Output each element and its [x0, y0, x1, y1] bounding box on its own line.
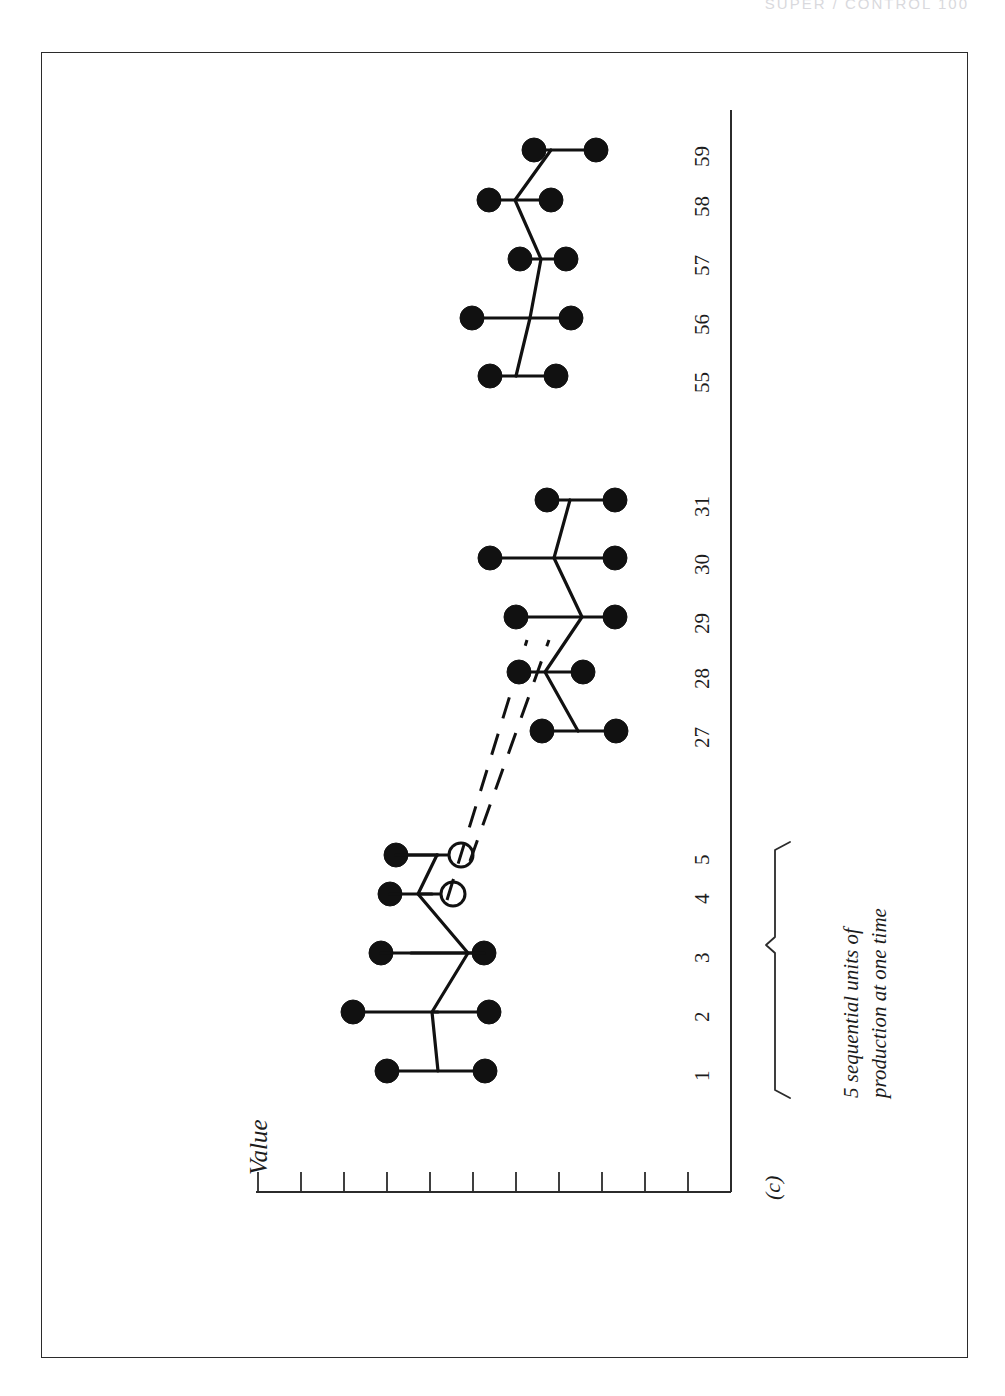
category-tick-label: 5: [690, 855, 715, 866]
category-tick-label: 27: [690, 727, 715, 748]
category-tick-label: 28: [690, 668, 715, 689]
category-tick-label: 57: [690, 255, 715, 276]
bracket-annotation-line-2: production at one time: [866, 908, 894, 1098]
category-tick-label: 29: [690, 613, 715, 634]
category-tick-label: 30: [690, 554, 715, 575]
category-tick-label: 3: [690, 953, 715, 964]
bracket-annotation: 5 sequential units of production at one …: [838, 908, 893, 1098]
category-tick-label: 2: [690, 1012, 715, 1023]
category-tick-label: 4: [690, 894, 715, 905]
category-tick-label: 56: [690, 314, 715, 335]
panel-label: (c): [760, 1176, 786, 1200]
running-head: SUPER / CONTROL 100: [765, 0, 969, 12]
bracket-annotation-line-1: 5 sequential units of: [838, 908, 866, 1098]
value-axis-title: Value: [245, 1119, 273, 1175]
category-tick-label: 31: [690, 496, 715, 517]
page-frame: [41, 52, 968, 1358]
category-tick-label: 1: [690, 1071, 715, 1082]
category-tick-label: 59: [690, 146, 715, 167]
category-tick-label: 55: [690, 372, 715, 393]
category-tick-label: 58: [690, 196, 715, 217]
